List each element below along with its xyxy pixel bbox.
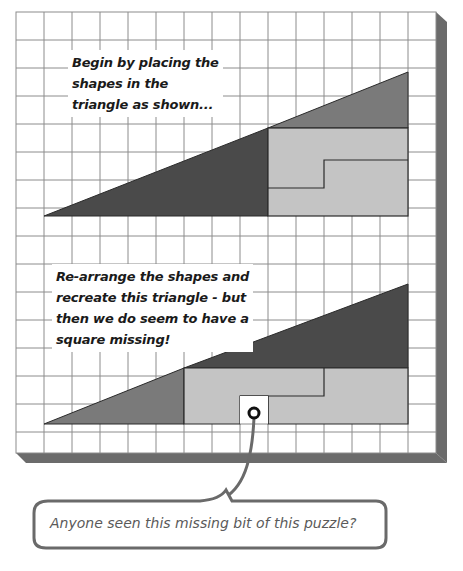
bubble-text: Anyone seen this missing bit of this puz… — [50, 515, 356, 531]
upper-light-block — [268, 128, 408, 216]
bottom-caption-line: Re-arrange the shapes and — [56, 266, 249, 287]
top-caption-line: shapes in the — [72, 73, 219, 94]
bottom-caption-line: then we do seem to have a — [56, 308, 249, 329]
bottom-caption-line: recreate this triangle - but — [56, 287, 249, 308]
top-caption: Begin by placing the shapes in the trian… — [68, 50, 223, 117]
bottom-caption: Re-arrange the shapes and recreate this … — [52, 264, 253, 352]
top-caption-line: Begin by placing the — [72, 52, 219, 73]
missing-square-marker-icon — [249, 408, 259, 418]
bottom-caption-line: square missing! — [56, 329, 249, 350]
top-caption-line: triangle as shown... — [72, 94, 219, 115]
